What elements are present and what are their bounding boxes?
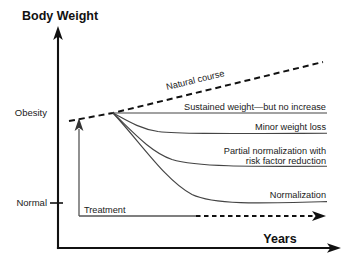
y-tick-label-obesity: Obesity: [15, 107, 47, 118]
chart-canvas: Body Weight Years Obesity Normal Natural…: [0, 0, 348, 272]
label-treatment: Treatment: [84, 205, 126, 215]
label-partial-normalization-line1: Partial normalization with: [224, 146, 326, 156]
y-axis-title: Body Weight: [22, 9, 99, 23]
label-minor-weight-loss: Minor weight loss: [255, 122, 326, 132]
treatment-start-arrow: [75, 118, 84, 216]
x-axis-title: Years: [263, 232, 296, 246]
body-weight-treatment-chart: Body Weight Years Obesity Normal Natural…: [0, 0, 348, 272]
label-sustained-weight: Sustained weight—but no increase: [184, 102, 326, 112]
label-partial-normalization-line2: risk factor reduction: [246, 156, 326, 166]
natural-course-dashed-line: [69, 62, 323, 121]
y-tick-label-normal: Normal: [16, 197, 47, 208]
treatment-line-arrowhead: [312, 211, 326, 221]
label-normalization: Normalization: [270, 190, 326, 200]
y-axis: [53, 26, 63, 248]
x-axis: [58, 243, 341, 253]
